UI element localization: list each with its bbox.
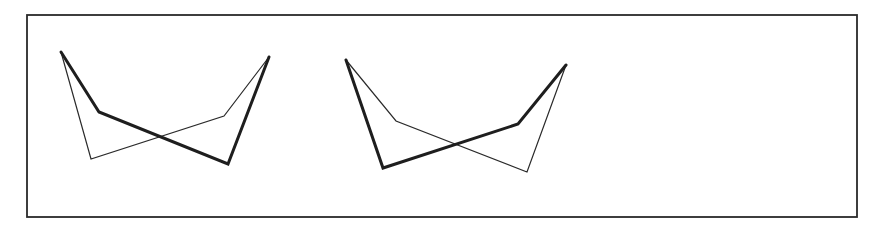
diagram-frame xyxy=(27,15,857,217)
thick-polyline xyxy=(346,60,566,168)
thick-polyline xyxy=(61,52,269,164)
figure-right xyxy=(346,60,566,172)
diagram-canvas xyxy=(0,0,883,234)
figure-left xyxy=(61,52,269,164)
thin-polyline xyxy=(61,52,269,159)
